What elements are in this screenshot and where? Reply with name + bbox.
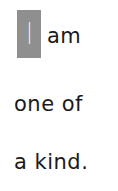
- highlighted-letter-box: I: [17, 10, 41, 58]
- highlighted-letter: I: [27, 19, 32, 49]
- text-line-1: am: [47, 26, 81, 47]
- text-line-2: one of: [14, 94, 83, 115]
- text-line-3: a kind.: [14, 152, 88, 173]
